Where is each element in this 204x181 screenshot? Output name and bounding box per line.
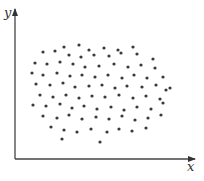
data-point (135, 105, 138, 108)
data-point (58, 102, 61, 105)
data-point (87, 84, 90, 87)
data-point (44, 104, 47, 107)
data-points (30, 43, 171, 143)
data-point (145, 76, 148, 79)
data-point (62, 128, 65, 131)
data-point (73, 85, 76, 88)
data-point (34, 82, 37, 85)
data-point (106, 73, 109, 76)
data-point (67, 53, 70, 56)
data-point (112, 62, 115, 65)
data-point (49, 125, 52, 128)
data-point (94, 115, 97, 118)
data-point (140, 85, 143, 88)
data-point (70, 106, 73, 109)
data-point (51, 95, 54, 98)
data-point (146, 116, 149, 119)
data-point (33, 61, 36, 64)
data-point (135, 52, 138, 55)
data-point (71, 62, 74, 65)
data-point (151, 57, 154, 60)
data-point (48, 83, 51, 86)
data-point (30, 71, 33, 74)
data-point (93, 75, 96, 78)
data-point (122, 108, 125, 111)
data-point (105, 130, 108, 133)
data-point (130, 129, 133, 132)
data-point (119, 51, 122, 54)
data-point (98, 140, 101, 143)
data-point (92, 53, 95, 56)
data-point (83, 65, 86, 68)
data-point (79, 55, 82, 58)
data-point (64, 93, 67, 96)
data-point (100, 83, 103, 86)
data-point (116, 48, 119, 51)
data-point (168, 86, 171, 89)
data-point (53, 49, 56, 52)
data-point (126, 65, 129, 68)
data-point (55, 116, 58, 119)
data-point (120, 114, 123, 117)
data-point (31, 103, 34, 106)
data-point (113, 86, 116, 89)
data-point (102, 46, 105, 49)
data-point (82, 104, 85, 107)
data-point (125, 84, 128, 87)
data-point (153, 66, 156, 69)
data-point (144, 126, 147, 129)
data-point (97, 64, 100, 67)
data-point (58, 60, 61, 63)
data-point (95, 107, 98, 110)
data-point (80, 73, 83, 76)
data-point (133, 118, 136, 121)
data-point (62, 45, 65, 48)
data-point (77, 96, 80, 99)
data-point (139, 63, 142, 66)
x-axis-label: x (187, 159, 195, 174)
data-point (107, 54, 110, 57)
data-point (149, 107, 152, 110)
data-point (68, 74, 71, 77)
data-point (144, 94, 147, 97)
data-point (154, 83, 157, 86)
data-point (131, 45, 134, 48)
data-point (164, 88, 167, 91)
y-axis-label: y (3, 5, 12, 20)
data-point (55, 71, 58, 74)
data-point (117, 127, 120, 130)
scatter-plot: y x (0, 0, 204, 181)
data-point (117, 93, 120, 96)
data-point (80, 117, 83, 120)
data-point (45, 62, 48, 65)
data-point (103, 95, 106, 98)
data-point (120, 76, 123, 79)
data-point (131, 96, 134, 99)
data-point (38, 93, 41, 96)
data-point (87, 48, 90, 51)
data-point (90, 94, 93, 97)
data-point (67, 113, 70, 116)
data-point (41, 114, 44, 117)
data-point (159, 113, 162, 116)
data-point (61, 81, 64, 84)
data-point (132, 73, 135, 76)
data-point (75, 130, 78, 133)
data-point (109, 105, 112, 108)
data-point (41, 73, 44, 76)
data-point (161, 75, 164, 78)
data-point (161, 101, 164, 104)
data-point (89, 127, 92, 130)
data-point (60, 137, 63, 140)
data-point (77, 43, 80, 46)
data-point (107, 117, 110, 120)
data-point (158, 97, 161, 100)
data-point (41, 50, 44, 53)
